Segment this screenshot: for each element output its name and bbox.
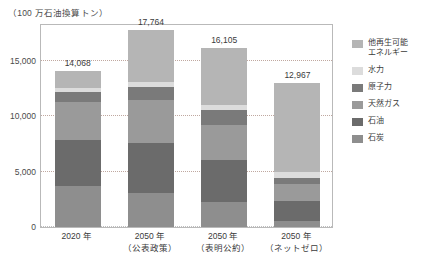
- bar-segment[interactable]: [201, 160, 247, 202]
- x-axis-label-line2: （公表政策）: [113, 242, 186, 254]
- legend-swatch-icon: [352, 40, 363, 48]
- legend-label: 石炭: [368, 133, 384, 143]
- plot-area: 05,00010,00015,000 14,06817,76416,10512,…: [40, 24, 333, 228]
- x-axis-label-line2: （表明公約）: [187, 242, 260, 254]
- stacked-bar-chart: （100 万石油換算トン） 05,00010,00015,000 14,0681…: [0, 0, 426, 264]
- bar-segment[interactable]: [55, 102, 101, 140]
- legend-swatch-icon: [352, 67, 363, 75]
- x-axis-label: 2020 年: [40, 230, 113, 242]
- legend-label: 天然ガス: [368, 99, 400, 109]
- bar-segment[interactable]: [274, 221, 320, 227]
- chart-legend: 他再生可能 エネルギー水力原子力天然ガス石油石炭: [352, 38, 424, 150]
- bars-layer: 14,06817,76416,10512,967: [41, 25, 332, 227]
- bar-segment[interactable]: [201, 110, 247, 125]
- bar-segment[interactable]: [128, 30, 174, 82]
- bar-segment[interactable]: [128, 143, 174, 193]
- bar-segment[interactable]: [55, 71, 101, 87]
- bar-segment[interactable]: [128, 193, 174, 227]
- bar-segment[interactable]: [274, 178, 320, 185]
- x-axis-label: 2050 年（表明公約）: [187, 230, 260, 254]
- y-axis-tick-label: 15,000: [10, 56, 36, 66]
- x-axis-label-line1: 2050 年: [281, 231, 311, 241]
- legend-item[interactable]: 石油: [352, 116, 424, 126]
- legend-label: 原子力: [368, 82, 392, 92]
- bar-total-label: 14,068: [65, 58, 91, 68]
- bar-segment[interactable]: [274, 201, 320, 221]
- x-axis-label: 2050 年（ネットゼロ）: [260, 230, 333, 254]
- bar-group[interactable]: 17,764: [128, 30, 174, 227]
- x-axis-label-line1: 2050 年: [135, 231, 165, 241]
- x-axis-label: 2050 年（公表政策）: [113, 230, 186, 254]
- bar-segment[interactable]: [274, 83, 320, 172]
- bar-group[interactable]: 12,967: [274, 83, 320, 227]
- bar-segment[interactable]: [274, 184, 320, 201]
- legend-item[interactable]: 他再生可能 エネルギー: [352, 38, 424, 58]
- x-axis-label-line1: 2020 年: [61, 231, 91, 241]
- legend-swatch-icon: [352, 84, 363, 92]
- legend-item[interactable]: 水力: [352, 65, 424, 75]
- chart-unit-title: （100 万石油換算トン）: [8, 6, 108, 18]
- bar-segment[interactable]: [55, 92, 101, 102]
- legend-swatch-icon: [352, 101, 363, 109]
- bar-group[interactable]: 14,068: [55, 71, 101, 227]
- bar-segment[interactable]: [201, 202, 247, 227]
- legend-item[interactable]: 原子力: [352, 82, 424, 92]
- bar-group[interactable]: 16,105: [201, 48, 247, 227]
- bar-segment[interactable]: [201, 48, 247, 104]
- bar-segment[interactable]: [201, 125, 247, 160]
- x-axis-label-line2: （ネットゼロ）: [260, 242, 333, 254]
- legend-label: 水力: [368, 65, 384, 75]
- bar-segment[interactable]: [55, 140, 101, 186]
- bar-segment[interactable]: [55, 186, 101, 227]
- legend-swatch-icon: [352, 135, 363, 143]
- legend-swatch-icon: [352, 118, 363, 126]
- bar-total-label: 12,967: [284, 70, 310, 80]
- bar-segment[interactable]: [128, 100, 174, 143]
- y-axis-tick-label: 0: [31, 222, 36, 232]
- legend-item[interactable]: 石炭: [352, 133, 424, 143]
- y-axis-tick-label: 5,000: [15, 167, 36, 177]
- legend-label: 石油: [368, 116, 384, 126]
- x-axis-labels: 2020 年2050 年（公表政策）2050 年（表明公約）2050 年（ネット…: [40, 230, 333, 262]
- bar-segment[interactable]: [128, 87, 174, 100]
- y-axis-tick-label: 10,000: [10, 111, 36, 121]
- legend-label: 他再生可能 エネルギー: [368, 38, 408, 58]
- x-axis-label-line1: 2050 年: [208, 231, 238, 241]
- legend-item[interactable]: 天然ガス: [352, 99, 424, 109]
- bar-total-label: 17,764: [138, 17, 164, 27]
- bar-total-label: 16,105: [211, 35, 237, 45]
